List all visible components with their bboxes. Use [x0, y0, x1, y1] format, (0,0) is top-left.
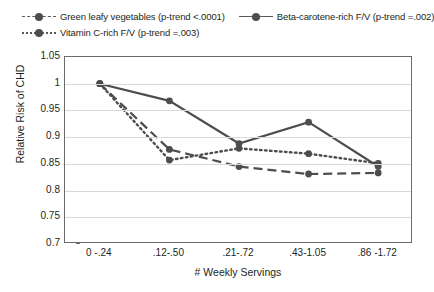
data-point — [305, 119, 312, 126]
x-axis-tick-label: .21-.72 — [222, 247, 253, 259]
x-axis-tick-labels: 0 -.24.12-.50.21-.72.43-1.05.86 -1.72 — [64, 247, 412, 261]
gridline — [65, 110, 411, 111]
legend-entry-green-leafy-vegetables: Green leafy vegetables (p-trend <.0001) — [22, 11, 225, 22]
x-axis-tick-label: .12-.50 — [153, 247, 184, 259]
legend-label-green-leafy-vegetables: Green leafy vegetables (p-trend <.0001) — [60, 11, 225, 22]
y-axis-tick-label: 0.95 — [20, 104, 60, 114]
y-axis-tick-label: 0.75 — [20, 211, 60, 221]
legend-entry-beta-carotene-rich: Beta-carotene-rich F/V (p-trend =.002) — [239, 11, 434, 22]
legend-label-beta-carotene-rich: Beta-carotene-rich F/V (p-trend =.002) — [277, 11, 434, 22]
legend-label-vitamin-c-rich: Vitamin C-rich F/V (p-trend =.003) — [60, 27, 199, 38]
x-axis-tick-label: .86 -1.72 — [357, 247, 396, 259]
series-lines-layer — [65, 57, 413, 244]
plot-area — [64, 56, 412, 243]
legend-key-dotted-line-icon — [22, 27, 56, 38]
data-point — [166, 97, 173, 104]
legend-key-solid-line-icon — [239, 11, 273, 22]
x-axis-tick-label: 0 -.24 — [86, 247, 112, 259]
chart-legend: Green leafy vegetables (p-trend <.0001) … — [22, 8, 426, 40]
data-point — [166, 157, 173, 164]
data-point — [305, 150, 312, 157]
gridline — [65, 191, 411, 192]
y-axis-tick-label: 0.7 — [20, 238, 60, 248]
y-axis-tick-label: 1.05 — [20, 51, 60, 61]
y-axis-tick-label: 0.85 — [20, 158, 60, 168]
y-axis-tick-label: 0.8 — [20, 185, 60, 195]
data-point — [236, 145, 243, 152]
chart-container: Green leafy vegetables (p-trend <.0001) … — [0, 0, 434, 292]
gridline — [65, 217, 411, 218]
x-axis-title: # Weekly Servings — [64, 266, 412, 278]
y-axis-tick-label: 0.9 — [20, 131, 60, 141]
gridline — [65, 84, 411, 85]
series-line-1 — [100, 84, 378, 167]
y-axis-tick-label: 1 — [20, 78, 60, 88]
x-axis-tick-label: .43-1.05 — [289, 247, 326, 259]
data-point — [305, 171, 312, 178]
data-point — [375, 170, 382, 177]
legend-entry-vitamin-c-rich: Vitamin C-rich F/V (p-trend =.003) — [22, 27, 199, 38]
legend-key-dashed-line-icon — [22, 11, 56, 22]
legend-row-1: Green leafy vegetables (p-trend <.0001) … — [22, 8, 426, 24]
y-axis-tick-labels: 0.70.750.80.850.90.9511.05 — [16, 56, 60, 243]
gridline — [65, 164, 411, 165]
data-point — [166, 146, 173, 153]
gridline — [65, 137, 411, 138]
legend-row-2: Vitamin C-rich F/V (p-trend =.003) — [22, 24, 426, 40]
